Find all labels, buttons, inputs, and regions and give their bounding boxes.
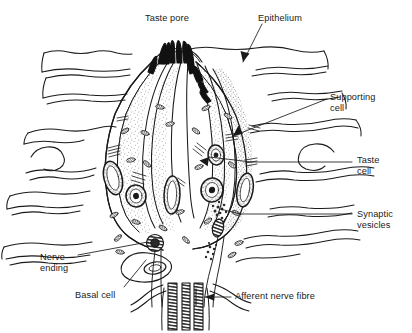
afferent-nerve-bundle (162, 283, 210, 330)
label-afferent-nerve-fibre: Afferent nerve fibre (235, 291, 315, 302)
label-supporting-cell: Supporting cell (330, 92, 375, 115)
label-nerve-ending: Nerve ending (40, 252, 68, 275)
leader-basal-cell (124, 260, 146, 287)
cell-cytoplasm-fills (117, 62, 252, 234)
taste-bud-diagram (0, 0, 412, 333)
label-synaptic-vesicles: Synaptic vesicles (357, 209, 393, 232)
label-taste-pore: Taste pore (145, 13, 189, 24)
label-basal-cell: Basal cell (75, 290, 115, 301)
taste-bud-base (131, 284, 251, 312)
basal-cell-nucleus (143, 260, 167, 276)
figure-canvas: Taste pore Epithelium Supporting cell Ta… (0, 0, 412, 333)
epithelium-layers-left (2, 51, 132, 265)
label-epithelium: Epithelium (258, 13, 302, 24)
label-taste-cell: Taste cell (357, 155, 379, 178)
